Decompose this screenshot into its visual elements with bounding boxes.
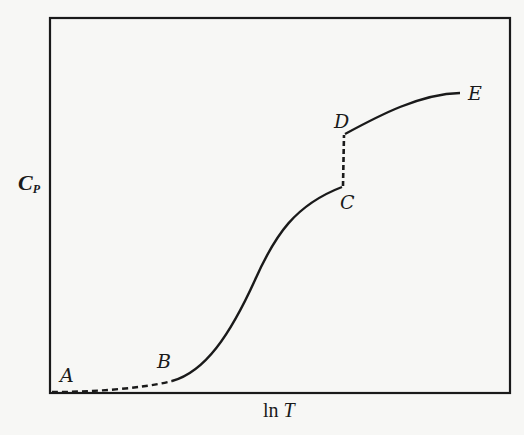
point-label-d: D bbox=[334, 112, 349, 131]
y-axis-label-subscript: P bbox=[33, 182, 40, 196]
segment-b-c-curve bbox=[172, 187, 342, 381]
y-axis-label-main: C bbox=[18, 170, 33, 195]
plot-frame bbox=[50, 18, 510, 393]
x-axis-label: ln T bbox=[263, 400, 295, 420]
y-axis-label: CP bbox=[18, 172, 40, 195]
point-label-b: B bbox=[157, 352, 171, 371]
point-label-e: E bbox=[468, 84, 482, 103]
heat-capacity-diagram bbox=[0, 0, 524, 435]
point-label-c: C bbox=[340, 193, 355, 212]
x-axis-label-var: T bbox=[284, 399, 295, 421]
x-axis-label-ln: ln bbox=[263, 399, 279, 421]
segment-c-d-jump bbox=[343, 135, 344, 186]
point-label-a: A bbox=[60, 366, 74, 385]
segment-d-e-curve bbox=[345, 93, 460, 134]
